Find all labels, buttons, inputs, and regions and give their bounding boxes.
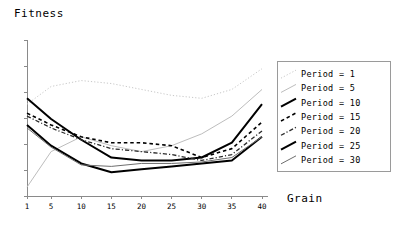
x-tick-label: 1 bbox=[25, 202, 30, 211]
chart-legend: Period = 1Period = 5Period = 10Period = … bbox=[277, 61, 390, 171]
legend-label-2: Period = 5 bbox=[301, 83, 355, 93]
x-tick-label: 10 bbox=[77, 202, 87, 211]
series-line-2 bbox=[27, 89, 262, 187]
x-tick-label: 15 bbox=[107, 202, 116, 211]
fitness-vs-grain-chart: Fitness Grain 1510152025303540 Period = … bbox=[0, 0, 396, 235]
x-tick-label: 25 bbox=[167, 202, 176, 211]
legend-label-1: Period = 1 bbox=[301, 69, 355, 79]
x-tick-label: 5 bbox=[49, 202, 54, 211]
legend-label-3: Period = 10 bbox=[301, 98, 361, 108]
x-tick-labels: 1510152025303540 bbox=[25, 202, 267, 211]
series-line-1 bbox=[27, 69, 262, 105]
legend-label-5: Period = 20 bbox=[301, 126, 361, 136]
series-layer bbox=[27, 69, 262, 187]
x-tick-label: 40 bbox=[257, 202, 267, 211]
axis-layer bbox=[24, 40, 268, 199]
x-tick-label: 30 bbox=[197, 202, 207, 211]
x-tick-label: 20 bbox=[137, 202, 147, 211]
legend-label-7: Period = 30 bbox=[301, 155, 361, 165]
legend-label-4: Period = 15 bbox=[301, 112, 361, 122]
plot-canvas: 1510152025303540 Period = 1Period = 5Per… bbox=[0, 0, 396, 235]
x-tick-label: 35 bbox=[227, 202, 236, 211]
legend-label-6: Period = 25 bbox=[301, 141, 361, 151]
